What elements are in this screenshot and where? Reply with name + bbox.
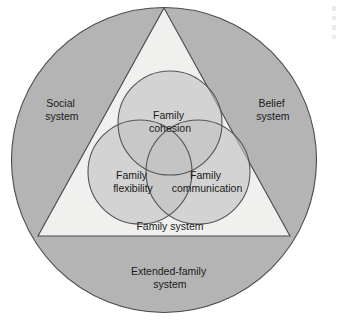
scan-artifact-mark [332, 6, 336, 11]
label-family-cohesion: Family cohesion [149, 109, 191, 134]
label-belief-system-line1: Belief [258, 97, 284, 109]
label-family-system: Family system [136, 220, 203, 232]
label-family-cohesion-line1: Family [153, 109, 185, 121]
label-family-communication-line2: communication [172, 182, 243, 194]
scan-artifact-mark [332, 35, 336, 39]
label-family-flexibility-line1: Family [116, 169, 148, 181]
label-family-communication-line1: Family [190, 169, 222, 181]
scan-artifact-mark [332, 16, 336, 20]
label-belief-system: Belief system [256, 97, 290, 122]
family-system-diagram: Social system Belief system Extended-fam… [0, 0, 343, 331]
label-social-system-line2: system [45, 110, 79, 122]
label-family-flexibility-line2: flexibility [113, 182, 153, 194]
label-belief-system-line2: system [256, 110, 290, 122]
label-social-system: Social system [45, 97, 79, 122]
label-family-flexibility: Family flexibility [113, 169, 153, 194]
scan-artifact-mark [332, 25, 336, 30]
label-family-cohesion-line2: cohesion [149, 122, 191, 134]
label-extended-family-system-line1: Extended-family [131, 265, 207, 277]
label-social-system-line1: Social [46, 97, 75, 109]
diagram-canvas: Social system Belief system Extended-fam… [0, 0, 343, 331]
label-extended-family-system-line2: system [153, 278, 187, 290]
